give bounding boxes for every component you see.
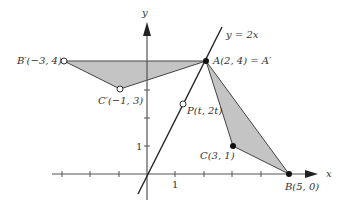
point-c-label: C(3, 1) <box>200 150 235 161</box>
x-tick-label-1: 1 <box>172 179 178 190</box>
point-b-label: B(5, 0) <box>284 181 319 192</box>
point-b <box>286 171 292 177</box>
point-c-prime <box>117 86 123 92</box>
triangle-a-prime-b-prime-c-prime <box>64 61 206 89</box>
point-b-prime-label: B′(−3, 4) <box>16 55 62 66</box>
reflection-diagram: y x 1 1 y = 2x A(2, 4) = A′ B′(−3, 4) C′… <box>0 0 346 210</box>
line-label: y = 2x <box>225 29 259 40</box>
point-p-label: P(t, 2t) <box>186 105 222 116</box>
point-b-prime <box>61 58 67 64</box>
x-axis-label: x <box>326 168 332 179</box>
y-axis-label: y <box>141 7 148 18</box>
point-c-prime-label: C′(−1, 3) <box>98 95 143 106</box>
point-a-label: A(2, 4) = A′ <box>212 55 272 66</box>
point-p <box>180 101 186 107</box>
x-axis-arrow-icon <box>305 170 318 178</box>
y-tick-label-1: 1 <box>136 141 142 152</box>
point-c <box>230 143 236 149</box>
point-a <box>203 58 209 64</box>
y-axis-arrow-icon <box>143 22 151 36</box>
